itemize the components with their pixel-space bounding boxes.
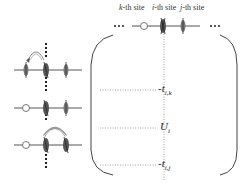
config-row-3 bbox=[14, 128, 82, 153]
diagram-canvas bbox=[0, 0, 247, 183]
matrix-entry-interaction: Ui bbox=[160, 120, 170, 135]
site-label-i: i-th site bbox=[152, 3, 176, 12]
config-row-1 bbox=[14, 52, 82, 78]
matrix-entry-hopping-ik: -ti,k bbox=[158, 82, 172, 97]
config-row-2 bbox=[14, 100, 82, 116]
empty-site-icon bbox=[141, 23, 148, 30]
reference-chain bbox=[132, 18, 200, 34]
matrix-entry-hopping-ij: -ti,j bbox=[158, 157, 170, 172]
spin-site-icon bbox=[181, 18, 186, 34]
row-lines bbox=[100, 90, 157, 165]
site-label-k: k-th site bbox=[119, 3, 145, 12]
site-label-j: j-th site bbox=[180, 3, 204, 12]
doublon-icon bbox=[160, 18, 166, 34]
